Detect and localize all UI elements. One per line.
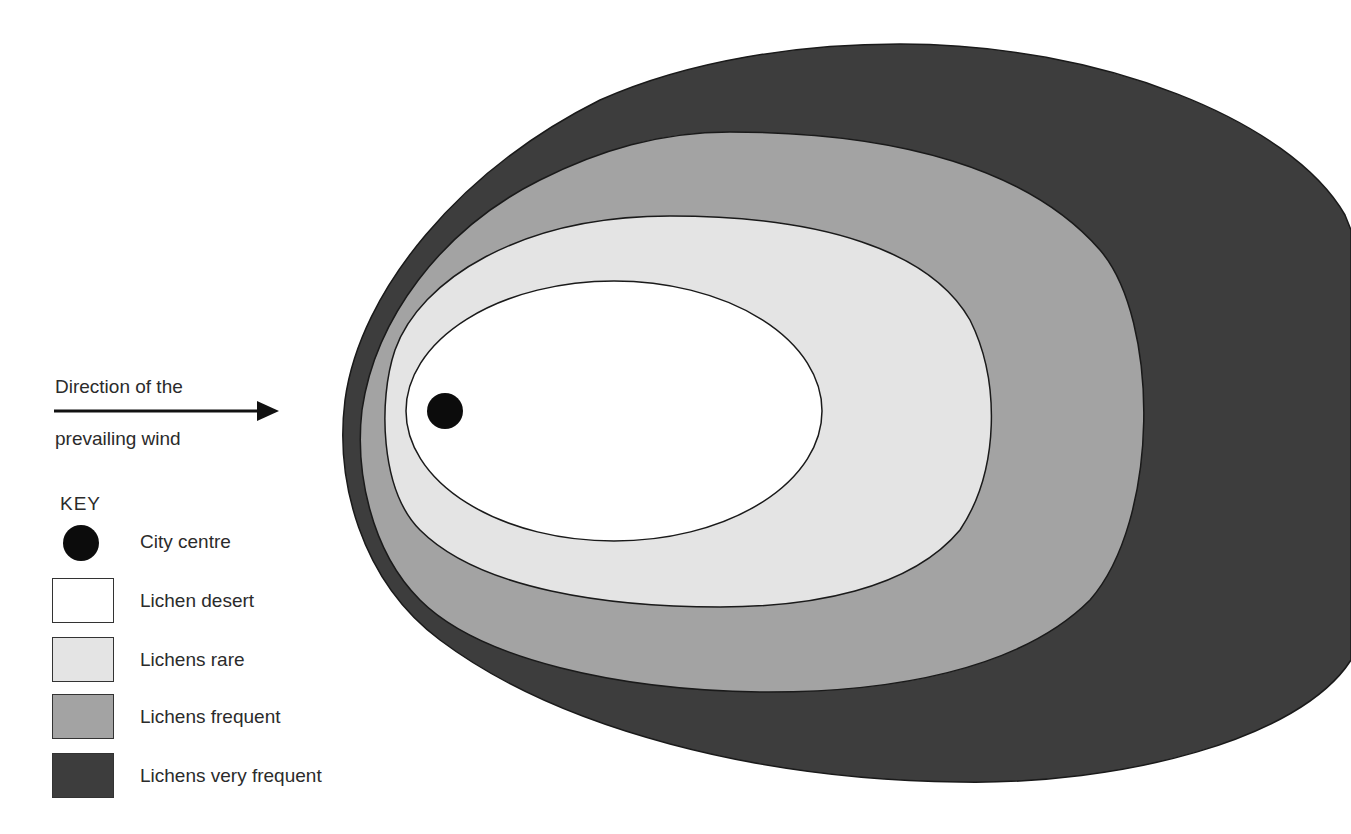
key-item-lichens-rare: Lichens rare <box>52 637 382 683</box>
key-item-lichens-very-frequent: Lichens very frequent <box>52 753 382 799</box>
key-label: Lichens very frequent <box>140 765 322 787</box>
wind-label-line1: Direction of the <box>55 376 183 398</box>
swatch-lichens-frequent-icon <box>52 694 114 739</box>
key-label: Lichens rare <box>140 649 245 671</box>
key-item-city-centre: City centre <box>52 523 382 569</box>
swatch-lichens-very-frequent-icon <box>52 753 114 798</box>
wind-label-line2: prevailing wind <box>55 428 181 450</box>
city-centre-dot <box>427 393 463 429</box>
key-item-lichen-desert: Lichen desert <box>52 578 382 624</box>
city-centre-icon <box>63 525 99 561</box>
zone-desert <box>406 281 822 541</box>
key-title: KEY <box>60 493 101 515</box>
swatch-lichen-desert-icon <box>52 578 114 623</box>
key-item-lichens-frequent: Lichens frequent <box>52 694 382 740</box>
key-label: City centre <box>140 531 231 553</box>
arrow-right-icon <box>54 400 279 422</box>
key-label: Lichen desert <box>140 590 254 612</box>
swatch-lichens-rare-icon <box>52 637 114 682</box>
key-label: Lichens frequent <box>140 706 281 728</box>
